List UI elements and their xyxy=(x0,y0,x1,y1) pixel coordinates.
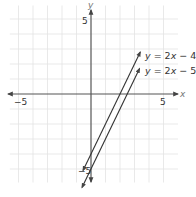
coordinate-plane: x y −5 5 5 −5 y = 2x − 4 y = 2x − 5 xyxy=(0,0,196,197)
x-axis-label: x xyxy=(179,89,186,99)
series-line-1 xyxy=(83,52,140,171)
legend-eq2-mid: = 2 xyxy=(151,65,171,76)
x-tick-label-neg5: −5 xyxy=(14,97,27,107)
legend-eq2-tail: − 5 xyxy=(176,65,196,76)
y-axis-label: y xyxy=(87,0,94,10)
legend-eq1-tail: − 4 xyxy=(176,50,196,61)
legend-eq1-mid: = 2 xyxy=(151,50,171,61)
y-tick-label-pos5: 5 xyxy=(82,16,88,26)
legend-eq2: y = 2x − 5 xyxy=(144,65,196,76)
legend-eq1: y = 2x − 4 xyxy=(144,50,196,61)
x-tick-label-pos5: 5 xyxy=(160,97,166,107)
